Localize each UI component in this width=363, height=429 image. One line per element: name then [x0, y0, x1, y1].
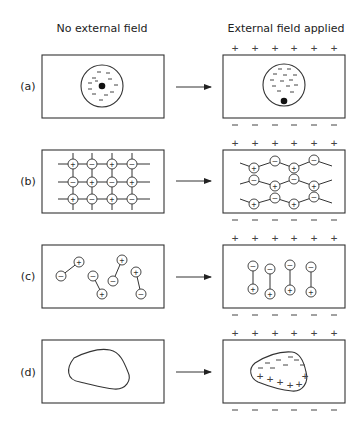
- svg-text:–: –: [312, 156, 317, 165]
- svg-text:+: +: [272, 42, 279, 55]
- nucleus-icon: [281, 98, 288, 105]
- svg-text:–: –: [130, 160, 135, 169]
- surface-positive-charges: + + + + + +: [257, 370, 309, 392]
- svg-text:+: +: [257, 370, 264, 383]
- svg-text:–: –: [91, 272, 96, 281]
- svg-text:+: +: [110, 160, 115, 169]
- svg-text:+: +: [292, 200, 297, 209]
- svg-text:+: +: [252, 327, 259, 340]
- surface-negative-charges: [258, 357, 305, 368]
- svg-text:–: –: [268, 265, 273, 274]
- polarization-mechanisms-diagram: No external field External field applied…: [0, 0, 363, 429]
- random-dipoles: – + – + – + + –: [56, 255, 146, 299]
- svg-text:+: +: [252, 42, 259, 55]
- panel-b-no-field: + – + – – + – + + – + –: [42, 150, 164, 213]
- svg-text:+: +: [251, 285, 256, 294]
- svg-text:+: +: [277, 376, 284, 389]
- panel-d-no-field: [42, 340, 164, 403]
- svg-text:–: –: [110, 178, 115, 187]
- svg-text:+: +: [273, 182, 278, 191]
- svg-text:–: –: [309, 263, 314, 272]
- svg-text:+: +: [134, 268, 139, 277]
- svg-text:+: +: [311, 327, 318, 340]
- svg-text:–: –: [288, 261, 293, 270]
- svg-text:+: +: [120, 256, 125, 265]
- svg-text:+: +: [232, 327, 239, 340]
- svg-text:+: +: [331, 42, 338, 55]
- svg-text:–: –: [71, 178, 76, 187]
- svg-text:+: +: [292, 164, 297, 173]
- svg-text:+: +: [268, 290, 273, 299]
- positive-plate: + + + + + +: [232, 137, 338, 150]
- svg-text:–: –: [292, 175, 297, 184]
- row-label-c: (c): [21, 270, 36, 283]
- svg-text:+: +: [232, 42, 239, 55]
- svg-text:+: +: [110, 195, 115, 204]
- column-title-field-applied: External field applied: [228, 22, 345, 35]
- positive-plate: + + + + + +: [232, 232, 338, 245]
- svg-text:+: +: [100, 290, 105, 299]
- svg-text:+: +: [71, 160, 76, 169]
- svg-text:+: +: [331, 327, 338, 340]
- panel-c-field-applied: + + + + + + – + – + – + – +: [223, 232, 345, 316]
- svg-text:–: –: [130, 195, 135, 204]
- panel-d-field-applied: + + + + + + + + + + + +: [223, 327, 345, 411]
- panel-a-no-field: [42, 55, 164, 118]
- svg-text:–: –: [90, 195, 95, 204]
- svg-text:–: –: [252, 176, 257, 185]
- svg-text:–: –: [251, 262, 256, 271]
- svg-text:–: –: [139, 290, 144, 299]
- svg-text:–: –: [273, 194, 278, 203]
- svg-text:+: +: [272, 327, 279, 340]
- panel-b-field-applied: + + + + + + + – + – – + – + + – + –: [223, 137, 345, 221]
- svg-text:+: +: [252, 137, 259, 150]
- svg-text:+: +: [311, 137, 318, 150]
- svg-text:+: +: [267, 373, 274, 386]
- svg-text:+: +: [90, 178, 95, 187]
- svg-text:+: +: [232, 137, 239, 150]
- svg-text:+: +: [291, 327, 298, 340]
- svg-text:–: –: [90, 160, 95, 169]
- row-label-a: (a): [20, 80, 35, 93]
- row-label-b: (b): [20, 175, 36, 188]
- aligned-dipoles: – + – + – + – +: [248, 260, 316, 299]
- svg-text:+: +: [312, 182, 317, 191]
- svg-text:+: +: [232, 232, 239, 245]
- svg-text:–: –: [312, 193, 317, 202]
- svg-text:+: +: [288, 286, 293, 295]
- svg-text:+: +: [77, 258, 82, 267]
- svg-text:+: +: [252, 200, 257, 209]
- svg-text:+: +: [252, 164, 257, 173]
- positive-plate: + + + + + +: [232, 42, 338, 55]
- svg-text:+: +: [311, 232, 318, 245]
- svg-text:+: +: [272, 137, 279, 150]
- panel-a-field-applied: + + + + + +: [223, 42, 345, 126]
- svg-text:+: +: [291, 42, 298, 55]
- svg-text:–: –: [273, 157, 278, 166]
- svg-text:+: +: [331, 232, 338, 245]
- svg-text:+: +: [311, 42, 318, 55]
- particle-outline: [69, 349, 130, 389]
- svg-text:+: +: [272, 232, 279, 245]
- svg-text:+: +: [291, 137, 298, 150]
- svg-text:+: +: [309, 288, 314, 297]
- panel-c-no-field: – + – + – + + –: [42, 245, 164, 308]
- svg-text:+: +: [71, 195, 76, 204]
- svg-text:–: –: [111, 277, 116, 286]
- column-title-no-field: No external field: [57, 22, 148, 35]
- svg-text:+: +: [302, 370, 309, 383]
- svg-text:+: +: [287, 379, 294, 392]
- svg-text:+: +: [252, 232, 259, 245]
- svg-text:–: –: [59, 272, 64, 281]
- positive-plate: + + + + + +: [232, 327, 338, 340]
- svg-text:+: +: [130, 178, 135, 187]
- svg-text:+: +: [331, 137, 338, 150]
- nucleus-icon: [99, 83, 106, 90]
- row-label-d: (d): [20, 366, 36, 379]
- svg-text:+: +: [291, 232, 298, 245]
